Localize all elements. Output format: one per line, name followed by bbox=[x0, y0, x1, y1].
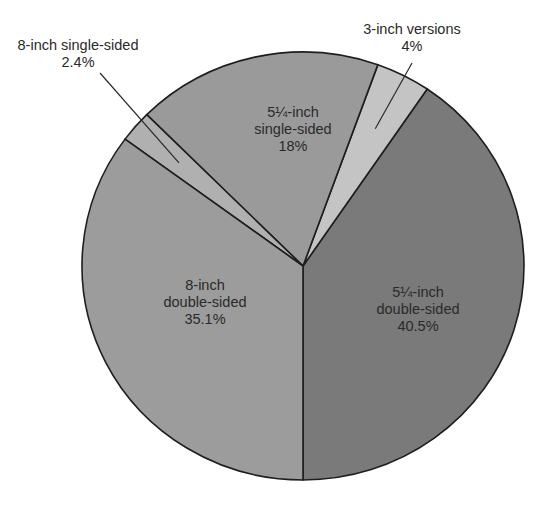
label-text: double-sided bbox=[163, 294, 246, 310]
label-text: single-sided bbox=[254, 121, 331, 137]
label-percent: 40.5% bbox=[397, 318, 438, 334]
label-percent: 4% bbox=[402, 38, 423, 54]
label-percent: 35.1% bbox=[184, 311, 225, 327]
label-text: 8-inch single-sided bbox=[18, 37, 139, 53]
label-3-inch-versions: 3-inch versions4% bbox=[363, 21, 461, 54]
label-text: 3-inch versions bbox=[363, 21, 461, 37]
label-text: 5¼-inch bbox=[392, 284, 444, 300]
pie-chart: 5¼-inchdouble-sided40.5%3-inch versions4… bbox=[0, 0, 554, 511]
label-percent: 2.4% bbox=[61, 54, 94, 70]
label-text: double-sided bbox=[376, 301, 459, 317]
label-percent: 18% bbox=[278, 138, 307, 154]
label-8-inch-single-sided: 8-inch single-sided2.4% bbox=[18, 37, 139, 70]
label-text: 5¼-inch bbox=[267, 104, 319, 120]
label-text: 8-inch bbox=[185, 277, 225, 293]
